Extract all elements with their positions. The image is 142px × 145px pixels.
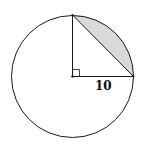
- diagram-canvas: 10: [0, 0, 142, 145]
- center-point: [71, 75, 73, 77]
- right-angle-marker: [73, 70, 80, 77]
- radius-label: 10: [95, 80, 112, 92]
- right-point: [133, 76, 135, 78]
- circle-diagram: [0, 0, 142, 145]
- top-point: [72, 14, 74, 16]
